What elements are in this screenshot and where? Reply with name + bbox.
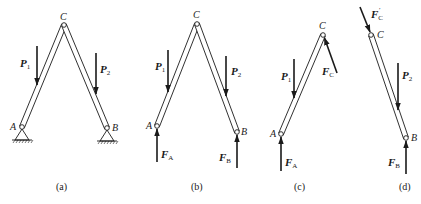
rod-ac	[279, 34, 326, 135]
label-p1: P1	[20, 57, 31, 71]
label-b: B	[112, 122, 118, 133]
label-fa: FA	[284, 156, 297, 170]
rod-cb	[62, 24, 110, 129]
label-a: A	[9, 121, 17, 132]
label-p2: P2	[231, 65, 242, 79]
caption-c: (c)	[294, 181, 305, 193]
label-fb: FB	[387, 156, 400, 170]
label-fc-prime: FC′	[370, 6, 383, 22]
force-fc-prime-arrow	[360, 7, 370, 32]
label-fc: FC	[321, 65, 334, 79]
label-c: C	[193, 9, 200, 20]
pin-a	[279, 132, 284, 137]
label-c: C	[319, 20, 326, 31]
label-p1: P1	[155, 60, 166, 74]
statics-diagram: C A B P1 P2 (a) C A B P1 P2 FA FB (b) C …	[0, 0, 421, 204]
label-a: A	[269, 128, 277, 139]
label-p2: P2	[402, 69, 413, 83]
label-b: B	[241, 126, 247, 137]
label-c: C	[377, 29, 384, 40]
pin-c	[369, 33, 374, 38]
label-p1: P1	[281, 70, 292, 84]
label-a: A	[145, 120, 153, 131]
caption-d: (d)	[399, 181, 411, 193]
panel-d: C B FC′ P2 FB (d)	[360, 6, 417, 193]
caption-a: (a)	[56, 181, 67, 193]
pin-a	[155, 124, 160, 129]
pin-b	[235, 130, 240, 135]
rod-cb	[369, 34, 409, 139]
rod-ac	[20, 24, 67, 128]
pin-b	[404, 136, 409, 141]
label-fa: FA	[160, 148, 173, 162]
panel-b: C A B P1 P2 FA FB (b)	[145, 9, 247, 193]
pin-c	[321, 33, 326, 38]
label-c: C	[60, 11, 67, 22]
label-b: B	[411, 132, 417, 143]
caption-b: (b)	[191, 181, 203, 193]
pin-c	[62, 23, 67, 28]
label-p2: P2	[100, 63, 111, 77]
panel-c: C A P1 FC FA (c)	[269, 20, 337, 193]
label-fb: FB	[218, 151, 231, 165]
rod-cb	[195, 23, 240, 133]
pin-c	[195, 22, 200, 27]
panel-a: C A B P1 P2 (a)	[9, 11, 118, 193]
rod-ac	[155, 23, 200, 127]
